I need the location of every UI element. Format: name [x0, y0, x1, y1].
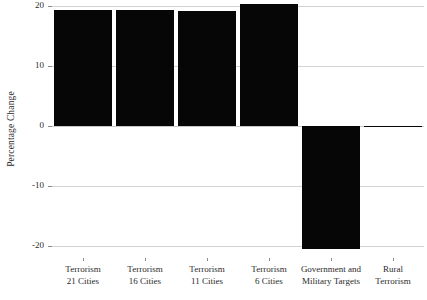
- x-label-line-2: 6 Cities: [238, 276, 300, 288]
- bar: [116, 10, 173, 126]
- x-label-line-1: Terrorism: [52, 264, 114, 276]
- x-label-line-1: Terrorism: [114, 264, 176, 276]
- x-label-line-1: Terrorism: [176, 264, 238, 276]
- x-axis-category-label: Terrorism16 Cities: [114, 258, 176, 287]
- x-tick-mark: [393, 258, 394, 261]
- plot-area: [52, 0, 424, 258]
- bar: [364, 126, 421, 127]
- gridline--20: [52, 246, 424, 247]
- y-tick-label--10: -10: [18, 181, 44, 190]
- x-label-line-2: 21 Cities: [52, 276, 114, 288]
- gridline-20: [52, 6, 424, 7]
- y-tick-label-0: 0: [18, 121, 44, 130]
- bar: [178, 11, 235, 126]
- gridline--10: [52, 186, 424, 187]
- x-tick-mark: [83, 258, 84, 261]
- y-tick-label-20: 20: [18, 1, 44, 10]
- y-axis-title-text: Percentage Change: [6, 91, 16, 167]
- bar: [302, 126, 359, 249]
- x-tick-mark: [269, 258, 270, 261]
- x-label-line-1: Government and: [300, 264, 362, 276]
- y-tick-label--20: -20: [18, 241, 44, 250]
- y-tick-label-10: 10: [18, 61, 44, 70]
- bar: [240, 4, 297, 126]
- x-label-line-2: 16 Cities: [114, 276, 176, 288]
- x-tick-mark: [145, 258, 146, 261]
- x-label-line-2: Terrorism: [362, 276, 424, 288]
- x-label-line-1: Terrorism: [238, 264, 300, 276]
- x-label-line-1: Rural: [362, 264, 424, 276]
- chart-figure: Percentage Change 20100-10-20 Terrorism2…: [0, 0, 427, 300]
- x-axis-category-label: Terrorism6 Cities: [238, 258, 300, 287]
- bar: [54, 10, 111, 126]
- x-axis-category-label: Terrorism11 Cities: [176, 258, 238, 287]
- x-axis-labels: Terrorism21 CitiesTerrorism16 CitiesTerr…: [52, 258, 424, 300]
- x-label-line-2: Military Targets: [300, 276, 362, 288]
- x-axis-category-label: Government andMilitary Targets: [300, 258, 362, 287]
- x-tick-mark: [207, 258, 208, 261]
- x-tick-mark: [331, 258, 332, 261]
- x-axis-category-label: Terrorism21 Cities: [52, 258, 114, 287]
- x-axis-category-label: RuralTerrorism: [362, 258, 424, 287]
- y-axis: 20100-10-20: [18, 0, 52, 258]
- x-label-line-2: 11 Cities: [176, 276, 238, 288]
